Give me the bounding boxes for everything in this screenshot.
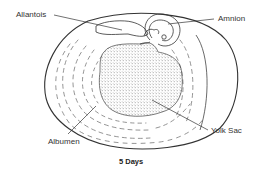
label-albumen: Albumen <box>48 137 80 146</box>
leader-yolk-sac <box>152 100 208 130</box>
allantois <box>96 21 148 37</box>
figure-caption: 5 Days <box>119 157 143 166</box>
leader-albumen <box>68 106 96 134</box>
label-yolk-sac: Yolk Sac <box>211 126 242 135</box>
label-allantois: Allantois <box>16 10 46 19</box>
label-amnion: Amnion <box>218 14 245 23</box>
inner-membrane <box>196 35 207 130</box>
yolk-sac <box>99 43 182 117</box>
egg-diagram <box>0 0 266 177</box>
